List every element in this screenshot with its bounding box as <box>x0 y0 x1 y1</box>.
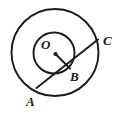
geometry-canvas <box>0 0 118 116</box>
label-center-o: O <box>41 38 50 51</box>
label-point-c: C <box>103 34 112 47</box>
label-point-a: A <box>26 95 35 108</box>
label-point-b: B <box>70 70 79 83</box>
geometry-figure: O B A C <box>0 0 118 116</box>
center-point-dot <box>53 52 57 56</box>
